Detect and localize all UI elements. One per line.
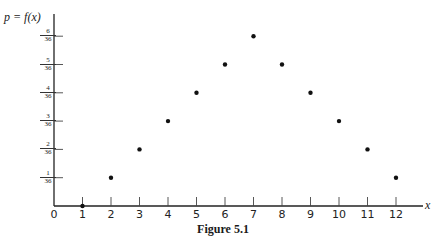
data-point [280, 62, 284, 66]
x-tick-label: 1 [73, 208, 93, 221]
y-tick-label: 236 [40, 141, 56, 156]
x-axis-label: x [425, 198, 430, 213]
data-point [109, 176, 113, 180]
y-tick-label: 336 [40, 113, 56, 128]
data-point [194, 91, 198, 95]
x-tick-label: 2 [101, 208, 121, 221]
y-tick-label: 136 [40, 170, 56, 185]
data-point [137, 147, 141, 151]
x-tick-label: 12 [386, 208, 406, 221]
y-tick-label: 536 [40, 57, 56, 72]
data-point [394, 176, 398, 180]
x-tick-label: 9 [301, 208, 321, 221]
data-point [251, 34, 255, 38]
x-tick-label: 8 [272, 208, 292, 221]
x-tick-label: 4 [158, 208, 178, 221]
y-axis-label: p = f(x) [4, 10, 41, 25]
data-point [337, 119, 341, 123]
data-point [365, 147, 369, 151]
y-tick-label: 436 [40, 85, 56, 100]
figure-caption: Figure 5.1 [0, 222, 446, 237]
y-tick-label: 636 [40, 28, 56, 43]
x-axis-ticks [83, 197, 397, 206]
x-tick-label: 7 [244, 208, 264, 221]
data-point [308, 91, 312, 95]
data-point [223, 62, 227, 66]
x-tick-label: 0 [44, 208, 64, 221]
x-tick-label: 5 [187, 208, 207, 221]
x-tick-label: 6 [215, 208, 235, 221]
data-points [80, 34, 398, 208]
data-point [166, 119, 170, 123]
x-tick-label: 3 [130, 208, 150, 221]
x-tick-label: 10 [329, 208, 349, 221]
x-tick-label: 11 [358, 208, 378, 221]
